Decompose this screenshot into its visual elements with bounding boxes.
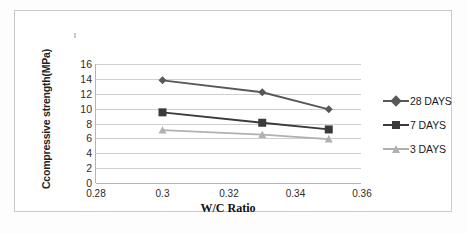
x-axis-tick-label: 0.34 xyxy=(286,188,305,199)
scan-artifact-speck xyxy=(74,33,76,38)
x-axis-tick-label: 0.28 xyxy=(86,188,105,199)
y-axis-tick-label: 2 xyxy=(62,162,92,174)
marker-diamond xyxy=(325,105,333,113)
series-28-days xyxy=(159,76,333,113)
y-axis-tick-label: 4 xyxy=(62,147,92,159)
legend-label: 7 DAYS xyxy=(409,119,446,131)
y-axis-tick-label: 8 xyxy=(62,118,92,130)
chart-frame: Ccompressive strength(MPa) 0246810121416… xyxy=(14,10,452,212)
gridline xyxy=(96,183,361,184)
legend-marker-square-icon xyxy=(392,121,400,129)
plot-area: 0246810121416 0.280.30.320.340.36 xyxy=(95,64,361,183)
series-3-days xyxy=(159,126,333,142)
marker-square xyxy=(258,119,266,127)
x-axis-tick-label: 0.3 xyxy=(156,188,170,199)
series-line xyxy=(163,80,329,109)
x-axis-tick-label: 0.36 xyxy=(352,188,371,199)
y-axis-tick-label: 10 xyxy=(62,103,92,115)
series-line xyxy=(163,112,329,129)
legend-marker-triangle-icon xyxy=(392,145,400,153)
legend-swatch-square-icon xyxy=(383,119,409,131)
y-axis-tick-label: 6 xyxy=(62,132,92,144)
series-line xyxy=(163,130,329,139)
marker-square xyxy=(159,108,167,116)
y-axis-title: Ccompressive strength(MPa) xyxy=(40,44,52,194)
marker-diamond xyxy=(258,88,266,96)
chart-legend: 28 DAYS7 DAYS3 DAYS xyxy=(383,89,467,161)
legend-item-3-days[interactable]: 3 DAYS xyxy=(383,137,467,161)
legend-item-28-days[interactable]: 28 DAYS xyxy=(383,89,467,113)
screenshot-root: Ccompressive strength(MPa) 0246810121416… xyxy=(0,0,467,234)
legend-swatch-diamond-icon xyxy=(383,95,409,107)
y-axis-tick-label: 14 xyxy=(62,73,92,85)
x-axis-title: W/C Ratio xyxy=(95,201,361,216)
marker-diamond xyxy=(159,76,167,84)
y-axis-tick-label: 12 xyxy=(62,88,92,100)
legend-label: 3 DAYS xyxy=(409,143,446,155)
y-axis-tick-label: 16 xyxy=(62,58,92,70)
series-layer xyxy=(96,64,362,183)
marker-square xyxy=(325,125,333,133)
legend-label: 28 DAYS xyxy=(409,95,452,107)
legend-swatch-triangle-icon xyxy=(383,143,409,155)
series-7-days xyxy=(159,108,333,133)
x-axis-tick-label: 0.32 xyxy=(219,188,238,199)
legend-item-7-days[interactable]: 7 DAYS xyxy=(383,113,467,137)
legend-marker-diamond-icon xyxy=(390,95,401,106)
